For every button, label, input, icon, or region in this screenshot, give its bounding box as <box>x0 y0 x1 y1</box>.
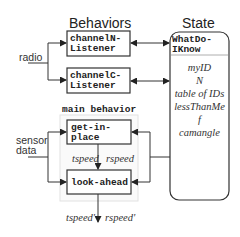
look-ahead-label: look-ahead <box>71 177 128 188</box>
inner-tspeed-label: tspeed <box>72 153 100 164</box>
state-item: table of IDs <box>175 88 225 99</box>
state-item: N <box>195 75 204 86</box>
get-in-place-line2: place <box>71 132 100 143</box>
output-rspeed-label: rspeed' <box>105 212 136 223</box>
behavior-state-diagram: Behaviors State main behavior radio chan… <box>0 0 240 237</box>
radio-label: radio <box>19 51 43 63</box>
diagram-svg: Behaviors State main behavior radio chan… <box>0 0 240 237</box>
behaviors-title: Behaviors <box>69 15 131 31</box>
state-title: State <box>182 15 215 31</box>
state-header-line2: IKnow <box>172 44 201 55</box>
state-item: camangle <box>179 127 220 138</box>
channelC-line2: Listener <box>70 80 116 91</box>
state-item: myID <box>188 62 212 73</box>
main-behavior-label: main behavior <box>62 104 136 115</box>
output-tspeed-label: tspeed' <box>66 212 96 223</box>
state-item: lessThanMe <box>174 101 225 112</box>
channelN-line2: Listener <box>70 43 116 54</box>
sensor-label-line2: data <box>16 144 37 156</box>
inner-rspeed-label: rspeed <box>106 153 135 164</box>
